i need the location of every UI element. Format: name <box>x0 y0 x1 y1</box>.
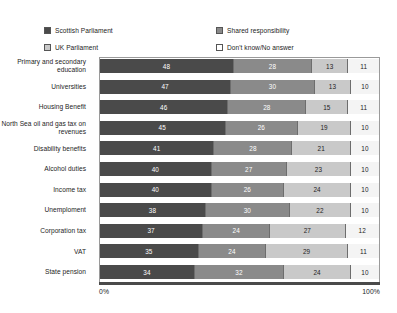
bar-segment: 32 <box>195 265 284 279</box>
bar-segment: 27 <box>212 162 287 176</box>
bar-segment: 28 <box>228 100 306 114</box>
bar-segment-value: 26 <box>244 186 251 193</box>
bar-segment-value: 28 <box>269 63 276 70</box>
bar-segment-value: 37 <box>147 227 154 234</box>
legend-item-scottish-parliament: Scottish Parliament <box>44 22 216 39</box>
bar-segment: 24 <box>203 224 270 238</box>
legend-swatch-icon <box>216 27 223 34</box>
stacked-bar: 38302210 <box>100 203 379 217</box>
bar-segment-value: 19 <box>320 124 327 131</box>
bar-segment-value: 11 <box>360 104 367 111</box>
stacked-bar: 40262410 <box>100 183 379 197</box>
bar-segment-value: 10 <box>361 145 368 152</box>
stacked-bar-chart: Scottish Parliament Shared responsibilit… <box>0 0 397 313</box>
bar-segment-value: 29 <box>303 248 310 255</box>
bar-segment-value: 23 <box>315 166 322 173</box>
category-label: North Sea oil and gas tax on revenues <box>0 120 92 135</box>
bar-segment: 10 <box>351 121 379 135</box>
bar-segment: 19 <box>298 121 351 135</box>
bar-segment-value: 11 <box>360 248 367 255</box>
bar-segment: 48 <box>100 59 234 73</box>
bar-segment-value: 28 <box>249 145 256 152</box>
category-label: Primary and secondary education <box>0 58 92 73</box>
bar-segment: 10 <box>351 141 379 155</box>
chart-row: VAT35242911 <box>0 244 397 258</box>
stacked-bar: 34322410 <box>100 265 379 279</box>
bar-segment: 24 <box>284 265 351 279</box>
chart-legend: Scottish Parliament Shared responsibilit… <box>44 22 364 56</box>
category-label: Disability benefits <box>0 145 92 153</box>
bar-segment: 24 <box>284 183 351 197</box>
bar-segment: 15 <box>306 100 348 114</box>
chart-row: Universities47301310 <box>0 80 397 94</box>
chart-row: North Sea oil and gas tax on revenues452… <box>0 121 397 135</box>
bar-segment-value: 22 <box>316 207 323 214</box>
legend-swatch-icon <box>44 27 51 34</box>
bar-segment-value: 10 <box>361 207 368 214</box>
bar-segment: 37 <box>100 224 203 238</box>
bar-segment-value: 30 <box>269 83 276 90</box>
stacked-bar: 46281511 <box>100 100 379 114</box>
bar-segment: 12 <box>346 224 379 238</box>
bar-rows-container: Primary and secondary education48281311U… <box>0 57 397 283</box>
category-label: State pension <box>0 268 92 276</box>
category-label: Corporation tax <box>0 227 92 235</box>
bar-segment: 40 <box>100 183 212 197</box>
category-label: Alcohol duties <box>0 165 92 173</box>
stacked-bar: 47301310 <box>100 80 379 94</box>
chart-row: Housing Benefit46281511 <box>0 100 397 114</box>
bar-segment-value: 28 <box>263 104 270 111</box>
bar-segment-value: 32 <box>235 269 242 276</box>
bar-segment: 22 <box>290 203 351 217</box>
chart-row: State pension34322410 <box>0 265 397 279</box>
bar-segment: 45 <box>100 121 226 135</box>
bar-segment: 26 <box>226 121 299 135</box>
legend-item-label: Scottish Parliament <box>55 27 113 35</box>
chart-row: Income tax40262410 <box>0 183 397 197</box>
chart-row: Disability benefits41282110 <box>0 141 397 155</box>
bar-segment-value: 27 <box>304 227 311 234</box>
bar-segment: 28 <box>234 59 312 73</box>
bar-segment-value: 40 <box>152 186 159 193</box>
legend-swatch-icon <box>216 44 223 51</box>
bar-segment: 10 <box>351 265 379 279</box>
chart-row: Primary and secondary education48281311 <box>0 59 397 73</box>
bar-segment: 47 <box>100 80 231 94</box>
bar-segment-value: 24 <box>228 248 235 255</box>
category-label: Unemploment <box>0 206 92 214</box>
bar-segment: 30 <box>206 203 290 217</box>
bar-segment: 27 <box>270 224 345 238</box>
bar-segment-value: 13 <box>326 63 333 70</box>
stacked-bar: 35242911 <box>100 244 379 258</box>
bar-segment: 11 <box>348 244 379 258</box>
bar-segment: 34 <box>100 265 195 279</box>
legend-item-uk-parliament: UK Parliament <box>44 39 216 56</box>
bar-segment-value: 30 <box>244 207 251 214</box>
bar-segment-value: 35 <box>145 248 152 255</box>
bar-segment: 40 <box>100 162 212 176</box>
bar-segment-value: 46 <box>160 104 167 111</box>
bar-segment-value: 38 <box>149 207 156 214</box>
bar-segment: 10 <box>351 80 379 94</box>
bar-segment: 13 <box>312 59 348 73</box>
chart-row: Corporation tax37242712 <box>0 224 397 238</box>
category-label: VAT <box>0 248 92 256</box>
legend-item-label: Don't know/No answer <box>227 44 294 52</box>
bar-segment: 10 <box>351 183 379 197</box>
bar-segment-value: 45 <box>159 124 166 131</box>
category-label: Universities <box>0 83 92 91</box>
bar-segment: 35 <box>100 244 199 258</box>
bar-segment: 23 <box>287 162 351 176</box>
bar-segment-value: 26 <box>258 124 265 131</box>
bar-segment-value: 34 <box>143 269 150 276</box>
stacked-bar: 40272310 <box>100 162 379 176</box>
stacked-bar: 48281311 <box>100 59 379 73</box>
bar-segment-value: 24 <box>313 269 320 276</box>
bar-segment: 26 <box>212 183 285 197</box>
bar-segment: 11 <box>348 100 379 114</box>
stacked-bar: 45261910 <box>100 121 379 135</box>
bar-segment-value: 47 <box>161 83 168 90</box>
bar-segment: 29 <box>266 244 348 258</box>
stacked-bar: 37242712 <box>100 224 379 238</box>
legend-item-label: UK Parliament <box>55 44 98 52</box>
